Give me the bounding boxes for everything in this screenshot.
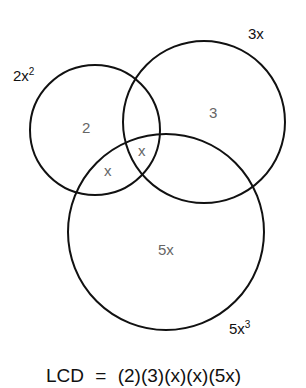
region-c-only: 5x: [158, 242, 174, 257]
label-5x-cubed: 5x3: [229, 321, 250, 336]
region-b-only: 3: [209, 105, 217, 120]
label-2x-squared-exp: 2: [29, 66, 35, 77]
equation-rhs: (2)(3)(x)(x)(5x): [118, 365, 241, 386]
label-2x-squared-base: 2x: [13, 67, 29, 84]
equation-lhs: LCD: [46, 365, 84, 386]
circle-2x-squared: [30, 65, 160, 195]
circle-5x-cubed: [68, 134, 264, 330]
label-2x-squared: 2x2: [13, 68, 34, 83]
label-3x: 3x: [248, 26, 264, 41]
label-5x-cubed-exp: 3: [245, 319, 251, 330]
region-a-and-c: x: [104, 163, 112, 178]
region-a-b-c: x: [138, 143, 146, 158]
label-3x-base: 3x: [248, 25, 264, 42]
region-a-only: 2: [82, 120, 90, 135]
equation-op: =: [95, 365, 106, 386]
lcd-equation: LCD = (2)(3)(x)(x)(5x): [46, 366, 241, 385]
label-5x-cubed-base: 5x: [229, 320, 245, 337]
circle-3x: [123, 41, 285, 203]
venn-diagram: [0, 0, 306, 388]
